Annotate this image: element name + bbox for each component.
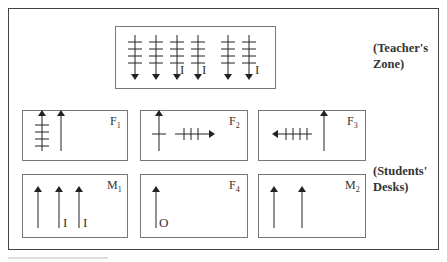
teacher-arrow-6 [242,35,256,77]
teacher-arrow-3 [170,35,184,77]
teacher-arrow-2 [149,35,163,77]
teacher-arrow-5 [221,35,235,77]
teacher-arrow-4 [191,35,205,77]
teacher-arrow-1 [128,35,142,77]
arrows-layer [0,0,447,262]
bottom-rule [8,257,108,259]
